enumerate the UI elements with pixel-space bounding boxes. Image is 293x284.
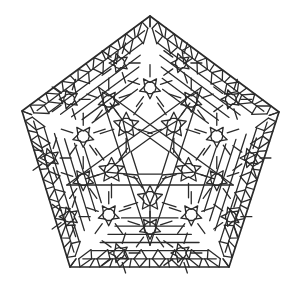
edge-rung: [258, 151, 267, 152]
edge-rung: [38, 99, 46, 103]
rosette-spoke: [160, 221, 172, 225]
band-line: [54, 134, 84, 231]
edge-rung: [246, 187, 254, 189]
rosette-star: [181, 206, 202, 226]
rosette-spoke: [234, 109, 237, 119]
rosette-spoke: [202, 94, 214, 98]
rosette-spoke: [233, 164, 242, 170]
rosette-spoke: [223, 189, 230, 199]
edge-rung: [40, 169, 48, 170]
rosette-spoke: [169, 208, 181, 212]
edge-kite-inner: [207, 250, 220, 259]
edge-kite: [79, 259, 92, 267]
edge-rung: [118, 40, 120, 49]
edge-kite: [207, 259, 220, 267]
edge-rung: [130, 259, 132, 267]
edge-rung: [235, 223, 242, 228]
edge-rung: [165, 28, 166, 38]
edge-rung: [180, 40, 182, 49]
rosette-spoke: [102, 259, 111, 265]
edge-kite: [46, 93, 59, 102]
rosette-star: [99, 158, 124, 182]
center-pentagon: [131, 138, 169, 174]
rosette-spoke: [214, 105, 223, 111]
rosette-spoke: [156, 97, 163, 107]
rosette-spoke: [119, 208, 131, 212]
rosette-spoke: [162, 203, 176, 207]
rosette-star: [59, 207, 77, 226]
rosette-spoke: [128, 221, 140, 225]
edge-rung: [186, 259, 189, 267]
edge-rung: [54, 87, 61, 92]
rosette-spoke: [53, 138, 56, 148]
edge-rung: [210, 64, 215, 71]
rosette-spoke: [124, 203, 138, 207]
edge-rung: [64, 241, 70, 248]
edge-rung: [134, 28, 135, 38]
rosette-spoke: [203, 145, 210, 155]
rosette-spoke: [202, 208, 214, 212]
edge-kite: [134, 259, 147, 267]
rosette-spoke: [164, 241, 173, 247]
rosette-spoke: [95, 224, 102, 234]
edge-kite: [242, 94, 255, 103]
rosette-spoke: [195, 173, 207, 177]
rosette-spoke: [214, 223, 223, 229]
rosette-spoke: [90, 145, 97, 155]
pentagon-tiling-figure: [0, 0, 293, 284]
rosette-spoke: [198, 224, 205, 234]
band-line: [44, 128, 79, 241]
rosette-spoke: [87, 208, 99, 212]
rosette-spoke: [94, 173, 106, 177]
edge-rung: [46, 187, 54, 189]
rosette-star: [73, 127, 94, 147]
rosette-spoke: [70, 145, 77, 155]
edge-kite: [97, 259, 110, 267]
rosette-spoke: [178, 110, 185, 120]
edge-rung: [86, 64, 91, 71]
edge-rung: [229, 241, 235, 248]
edge-rung: [223, 259, 229, 267]
rosette-spoke: [227, 129, 239, 133]
rosette-spoke: [214, 204, 223, 210]
edge-rung: [70, 259, 76, 267]
outer-pentagon: [22, 16, 279, 267]
edge-rung: [254, 100, 262, 104]
edge-rung: [225, 76, 231, 82]
rosette-star: [98, 206, 119, 226]
edge-kite: [152, 259, 165, 267]
rosette-star: [176, 158, 201, 182]
rosette-spoke: [136, 97, 143, 107]
rosette-spoke: [234, 226, 237, 236]
rosette-spoke: [115, 224, 122, 234]
rosette-star: [206, 127, 227, 147]
rosette-spoke: [87, 94, 99, 98]
band-line: [162, 78, 218, 120]
rosette-spoke: [233, 146, 242, 152]
edge-rung: [239, 88, 246, 93]
edge-rung: [240, 205, 247, 209]
edge-kite-inner: [79, 250, 92, 259]
rosette-star: [140, 79, 161, 99]
edge-rung: [195, 52, 199, 60]
rosette-spoke: [115, 110, 122, 120]
rosette-spoke: [102, 241, 111, 247]
edge-kite: [189, 259, 202, 267]
rosette-star: [171, 54, 189, 73]
rosette-spoke: [178, 224, 185, 234]
rosette-spoke: [61, 129, 73, 133]
